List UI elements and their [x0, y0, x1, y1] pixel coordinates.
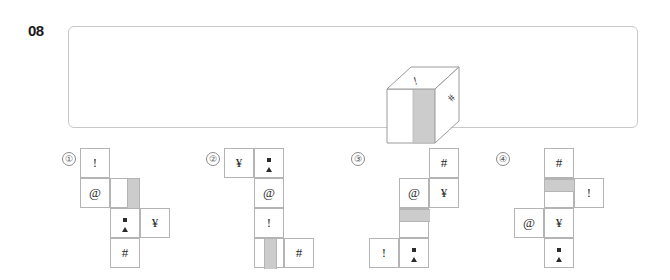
- net-cell-shaded: [254, 238, 284, 268]
- net-cell: [110, 208, 140, 238]
- dotbar-glyph-icon: [556, 248, 562, 262]
- net-cell: @: [80, 178, 110, 208]
- question-number: 08: [28, 22, 44, 39]
- cube-front-band: [413, 89, 435, 143]
- net-cell: [254, 148, 284, 178]
- net-cell-shaded: [544, 178, 574, 208]
- cell-symbol: ¥: [141, 209, 169, 237]
- cell-symbol: !: [81, 149, 109, 177]
- net-cell: !: [254, 208, 284, 238]
- net-cell: #: [429, 148, 459, 178]
- net-cell: #: [284, 238, 314, 268]
- prompt-frame: ! #: [68, 26, 638, 128]
- cell-symbol: #: [285, 239, 313, 267]
- option-4-label: ④: [496, 152, 510, 166]
- cell-symbol: ¥: [430, 179, 458, 207]
- net-cell-shaded: [110, 178, 140, 208]
- net-cell: !: [80, 148, 110, 178]
- net-cell-shaded: [399, 208, 429, 238]
- cell-symbol: !: [575, 179, 603, 207]
- cell-symbol: #: [545, 149, 573, 177]
- net-cell: @: [254, 178, 284, 208]
- shade-band: [264, 239, 277, 269]
- net-cell: !: [369, 238, 399, 268]
- cell-symbol: #: [111, 239, 139, 267]
- net-cell: ¥: [544, 208, 574, 238]
- cell-symbol: @: [255, 179, 283, 207]
- net-cell: ¥: [140, 208, 170, 238]
- net-cell: ¥: [429, 178, 459, 208]
- cell-symbol: @: [515, 209, 543, 237]
- shade-band: [545, 179, 575, 192]
- cell-symbol: ¥: [225, 149, 253, 177]
- cell-symbol: !: [370, 239, 398, 267]
- net-cell: @: [514, 208, 544, 238]
- shade-band: [127, 179, 140, 209]
- cell-symbol: #: [430, 149, 458, 177]
- option-1-label: ①: [62, 152, 76, 166]
- dotbar-glyph-icon: [266, 158, 272, 172]
- dotbar-glyph-icon: [411, 248, 417, 262]
- option-3-label: ③: [351, 152, 365, 166]
- cell-symbol: @: [400, 179, 428, 207]
- shade-band: [400, 209, 430, 222]
- net-cell: !: [574, 178, 604, 208]
- cell-symbol: !: [255, 209, 283, 237]
- isometric-cube: ! #: [381, 57, 481, 149]
- cell-symbol: ¥: [545, 209, 573, 237]
- net-cell: #: [110, 238, 140, 268]
- cell-symbol: @: [81, 179, 109, 207]
- net-cell: [399, 238, 429, 268]
- net-cell: [544, 238, 574, 268]
- net-cell: #: [544, 148, 574, 178]
- option-2-label: ②: [206, 152, 220, 166]
- dotbar-glyph-icon: [122, 218, 128, 232]
- net-cell: ¥: [224, 148, 254, 178]
- net-cell: @: [399, 178, 429, 208]
